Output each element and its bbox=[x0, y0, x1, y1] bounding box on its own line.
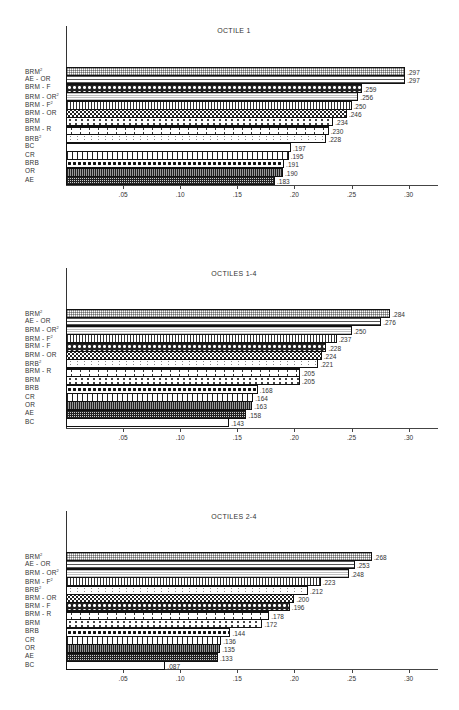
value-label: .190 bbox=[285, 170, 298, 177]
category-label: AE - OR bbox=[25, 75, 51, 82]
value-label: .253 bbox=[357, 562, 370, 569]
figure-caption-illegible bbox=[40, 697, 440, 703]
value-label: .228 bbox=[328, 345, 341, 352]
bar bbox=[66, 176, 275, 185]
value-label: .246 bbox=[349, 111, 362, 118]
category-label: BRM - F2 bbox=[25, 334, 53, 342]
x-tick bbox=[409, 428, 410, 432]
category-label: AE - OR bbox=[25, 317, 51, 324]
value-label: .234 bbox=[335, 119, 348, 126]
value-label: .221 bbox=[320, 361, 333, 368]
value-label: .259 bbox=[364, 86, 377, 93]
x-tick-label: .30 bbox=[404, 434, 413, 441]
x-tick bbox=[123, 428, 124, 432]
value-label: .178 bbox=[271, 613, 284, 620]
category-label: BRM - R bbox=[25, 125, 51, 132]
bar bbox=[66, 661, 165, 670]
value-label: .163 bbox=[254, 403, 267, 410]
value-label: .164 bbox=[255, 395, 268, 402]
value-label: .276 bbox=[383, 319, 396, 326]
category-label: BRM - OR bbox=[25, 594, 57, 601]
value-label: .195 bbox=[291, 153, 304, 160]
category-label: BRM - F2 bbox=[25, 577, 53, 585]
category-label: BRB2 bbox=[25, 585, 41, 593]
x-tick bbox=[237, 428, 238, 432]
category-label: AE bbox=[25, 176, 34, 183]
category-label: AE bbox=[25, 652, 34, 659]
value-label: .212 bbox=[310, 588, 323, 595]
x-tick bbox=[352, 185, 353, 189]
category-label: BRB bbox=[25, 384, 39, 391]
x-tick-label: .05 bbox=[119, 434, 128, 441]
x-tick bbox=[180, 428, 181, 432]
x-tick bbox=[294, 428, 295, 432]
chart-title: OCTILES 1-4 bbox=[211, 270, 256, 277]
x-tick-label: .30 bbox=[404, 191, 413, 198]
value-label: .248 bbox=[351, 571, 364, 578]
category-label: BRM bbox=[25, 117, 40, 124]
x-tick-label: .20 bbox=[290, 191, 299, 198]
x-tick bbox=[409, 669, 410, 673]
chart-title: OCTILE 1 bbox=[217, 27, 251, 34]
value-label: .143 bbox=[231, 420, 244, 427]
value-label: .256 bbox=[360, 94, 373, 101]
x-tick bbox=[180, 185, 181, 189]
category-label: BRM - OR2 bbox=[25, 92, 59, 100]
x-tick bbox=[352, 669, 353, 673]
x-tick-label: .30 bbox=[404, 675, 413, 682]
x-tick-label: .10 bbox=[176, 675, 185, 682]
chart-title: OCTILES 2-4 bbox=[211, 513, 256, 520]
value-label: .297 bbox=[407, 77, 420, 84]
category-label: BRB bbox=[25, 627, 39, 634]
value-label: .237 bbox=[339, 336, 352, 343]
x-axis-line bbox=[66, 428, 438, 429]
category-label: BC bbox=[25, 142, 34, 149]
value-label: .224 bbox=[324, 353, 337, 360]
value-label: .197 bbox=[293, 145, 306, 152]
x-tick-label: .15 bbox=[233, 675, 242, 682]
category-label: BRB2 bbox=[25, 134, 41, 142]
category-label: OR bbox=[25, 167, 35, 174]
category-label: OR bbox=[25, 644, 35, 651]
category-label: BRM - OR2 bbox=[25, 325, 59, 333]
category-label: BRM - F2 bbox=[25, 100, 53, 108]
x-tick-label: .10 bbox=[176, 434, 185, 441]
value-label: .250 bbox=[354, 103, 367, 110]
category-label: BRM - F bbox=[25, 602, 51, 609]
x-tick bbox=[237, 669, 238, 673]
x-tick-label: .05 bbox=[119, 675, 128, 682]
category-label: AE bbox=[25, 409, 34, 416]
value-label: .196 bbox=[292, 604, 305, 611]
category-label: BRM - OR bbox=[25, 351, 57, 358]
category-label: BRM - R bbox=[25, 367, 51, 374]
x-tick-label: .15 bbox=[233, 191, 242, 198]
category-label: BRB2 bbox=[25, 359, 41, 367]
category-label: BC bbox=[25, 661, 34, 668]
value-label: .230 bbox=[331, 128, 344, 135]
category-label: AE - OR bbox=[25, 560, 51, 567]
value-label: .135 bbox=[222, 646, 235, 653]
value-label: .268 bbox=[374, 554, 387, 561]
value-label: .205 bbox=[302, 370, 315, 377]
x-tick bbox=[237, 185, 238, 189]
x-tick-label: .25 bbox=[347, 675, 356, 682]
value-label: .284 bbox=[392, 311, 405, 318]
value-label: .228 bbox=[328, 136, 341, 143]
value-label: .087 bbox=[167, 663, 180, 670]
value-label: .133 bbox=[220, 655, 233, 662]
category-label: BRM - R bbox=[25, 610, 51, 617]
category-label: BRB bbox=[25, 159, 39, 166]
value-label: .158 bbox=[248, 412, 261, 419]
category-label: CR bbox=[25, 636, 35, 643]
x-tick bbox=[409, 185, 410, 189]
x-tick-label: .20 bbox=[290, 675, 299, 682]
category-label: OR bbox=[25, 401, 35, 408]
value-label: .223 bbox=[323, 579, 336, 586]
category-label: CR bbox=[25, 151, 35, 158]
value-label: .168 bbox=[260, 387, 273, 394]
x-tick-label: .25 bbox=[347, 191, 356, 198]
category-label: BRM2 bbox=[25, 552, 42, 560]
category-label: BRM2 bbox=[25, 309, 42, 317]
value-label: .144 bbox=[232, 630, 245, 637]
value-label: .136 bbox=[223, 638, 236, 645]
